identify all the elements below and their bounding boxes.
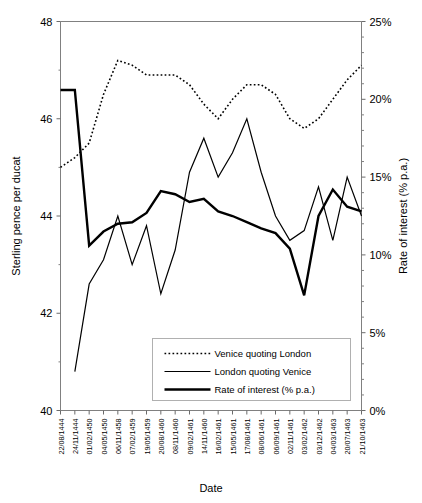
x-ticklabel: 24/11/1444 <box>71 419 80 454</box>
x-ticklabel: 06/11/1458 <box>114 419 123 454</box>
y-ticklabel-left: 48 <box>40 16 52 28</box>
series-line-0 <box>61 60 362 167</box>
x-ticklabel: 02/11/1461 <box>286 419 295 454</box>
x-axis-title: Date <box>199 482 222 494</box>
y-ticklabel-right: 10% <box>370 249 392 261</box>
x-ticklabel: 07/02/1459 <box>128 419 137 455</box>
y-ticklabel-left: 42 <box>40 307 52 319</box>
x-ticklabel: 17/08/1461 <box>243 419 252 455</box>
series-line-1 <box>75 119 362 372</box>
x-ticklabel: 14/11/1460 <box>200 419 209 454</box>
x-ticklabel: 04/03/1463 <box>329 419 338 455</box>
x-ticklabel: 08/06/1461 <box>257 419 266 455</box>
legend-label-2: Rate of interest (% p.a.) <box>215 384 315 395</box>
x-ticklabel: 03/02/1462 <box>300 419 309 455</box>
x-ticklabel: 22/08/1444 <box>57 419 66 455</box>
x-ticklabel: 01/02/1450 <box>85 419 94 455</box>
y-ticklabel-right: 25% <box>370 16 392 28</box>
exchange-rate-chart: 40424446480%5%10%15%20%25%22/08/144424/1… <box>0 0 422 503</box>
chart-svg: 40424446480%5%10%15%20%25%22/08/144424/1… <box>0 0 422 503</box>
y-ticklabel-right: 20% <box>370 93 392 105</box>
y-axis-title-right: Rate of interest (% p.a.) <box>397 158 409 274</box>
y-ticklabel-right: 0% <box>370 405 386 417</box>
y-ticklabel-right: 15% <box>370 171 392 183</box>
x-ticklabel: 04/05/1450 <box>100 419 109 455</box>
x-ticklabel: 16/02/1461 <box>214 419 223 455</box>
x-ticklabel: 20/08/1460 <box>157 419 166 455</box>
x-ticklabel: 03/12/1462 <box>315 419 324 455</box>
x-ticklabel: 19/05/1459 <box>143 419 152 455</box>
legend-label-1: London quoting Venice <box>215 366 312 377</box>
x-ticklabel: 21/10/1463 <box>358 419 367 455</box>
legend-label-0: Venice quoting London <box>215 348 312 359</box>
x-ticklabel: 06/09/1461 <box>272 419 281 455</box>
y-ticklabel-left: 46 <box>40 113 52 125</box>
x-ticklabel: 15/05/1461 <box>229 419 238 455</box>
y-axis-title-left: Sterling pence per ducat <box>10 156 22 275</box>
x-ticklabel: 20/07/1463 <box>343 419 352 455</box>
y-ticklabel-left: 40 <box>40 405 52 417</box>
y-ticklabel-right: 5% <box>370 327 386 339</box>
x-ticklabel: 08/11/1460 <box>171 419 180 454</box>
y-ticklabel-left: 44 <box>40 210 52 222</box>
x-ticklabel: 09/02/1461 <box>186 419 195 455</box>
